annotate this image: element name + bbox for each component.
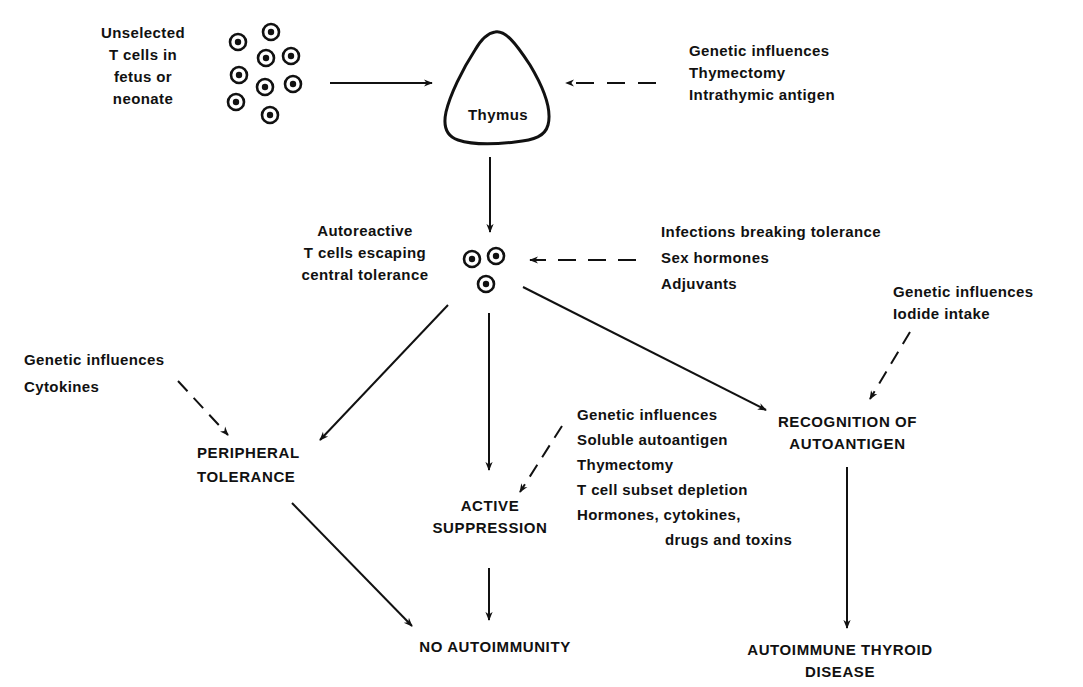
- no-autoimmunity-node: NO AUTOIMMUNITY: [400, 636, 590, 658]
- label-line: Autoreactive: [270, 220, 460, 242]
- label-line: Adjuvants: [661, 271, 881, 297]
- recognition-of-autoantigen-node: RECOGNITION OF AUTOANTIGEN: [765, 411, 930, 455]
- label-line: Genetic influences: [689, 40, 835, 62]
- label-line: AUTOIMMUNE THYROID: [730, 639, 950, 661]
- label-line: central tolerance: [270, 264, 460, 286]
- label-line: Genetic influences: [577, 402, 792, 427]
- label-line: neonate: [78, 88, 208, 110]
- label-line: Infections breaking tolerance: [661, 219, 881, 245]
- label-line: Thymectomy: [577, 452, 792, 477]
- label-line: PERIPHERAL: [197, 441, 300, 465]
- thymus-text: Thymus: [468, 106, 528, 123]
- label-line: RECOGNITION OF: [765, 411, 930, 433]
- tolerance-breakers-label: Infections breaking tolerance Sex hormon…: [661, 219, 881, 297]
- thymus-influences-label: Genetic influences Thymectomy Intrathymi…: [689, 40, 835, 106]
- label-line: Soluble autoantigen: [577, 427, 792, 452]
- peripheral-influences-label: Genetic influences Cytokines: [24, 346, 165, 400]
- peripheral-tolerance-node: PERIPHERAL TOLERANCE: [197, 441, 300, 489]
- diagram-canvas: Unselected T cells in fetus or neonate T…: [0, 0, 1083, 687]
- label-line: Thymectomy: [689, 62, 835, 84]
- label-line: Genetic influences: [893, 281, 1034, 303]
- label-line: T cells in: [78, 44, 208, 66]
- label-line: Hormones, cytokines,: [577, 502, 792, 527]
- label-line: Sex hormones: [661, 245, 881, 271]
- unselected-t-cell-cluster: [228, 24, 301, 123]
- active-suppression-node: ACTIVE SUPPRESSION: [420, 495, 560, 539]
- label-line: T cells escaping: [270, 242, 460, 264]
- recognition-influences-label: Genetic influences Iodide intake: [893, 281, 1034, 325]
- autoreactive-t-cells-label: Autoreactive T cells escaping central to…: [270, 220, 460, 286]
- label-line: Cytokines: [24, 373, 165, 400]
- label-line: AUTOANTIGEN: [765, 433, 930, 455]
- label-line: TOLERANCE: [197, 465, 300, 489]
- label-line: Iodide intake: [893, 303, 1034, 325]
- autoreactive-t-cell-cluster: [464, 248, 504, 292]
- label-line: SUPPRESSION: [420, 517, 560, 539]
- label-line: ACTIVE: [420, 495, 560, 517]
- label-line: drugs and toxins: [577, 527, 792, 552]
- label-line: Unselected: [78, 22, 208, 44]
- label-line: fetus or: [78, 66, 208, 88]
- label-line: DISEASE: [730, 661, 950, 683]
- thymus-label: Thymus: [450, 104, 546, 126]
- autoimmune-thyroid-disease-node: AUTOIMMUNE THYROID DISEASE: [730, 639, 950, 683]
- thymus-shape: [445, 32, 549, 144]
- suppression-influences-label: Genetic influences Soluble autoantigen T…: [577, 402, 792, 552]
- label-line: Intrathymic antigen: [689, 84, 835, 106]
- no-autoimmunity-text: NO AUTOIMMUNITY: [419, 638, 571, 655]
- label-line: Genetic influences: [24, 346, 165, 373]
- label-line: T cell subset depletion: [577, 477, 792, 502]
- unselected-t-cells-label: Unselected T cells in fetus or neonate: [78, 22, 208, 110]
